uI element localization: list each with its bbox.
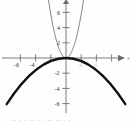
parabola-plot <box>0 0 136 124</box>
y-axis-arrow-icon <box>63 0 69 4</box>
x-tick-label-4: 4 <box>79 62 82 68</box>
x-axis-label: x <box>127 55 130 61</box>
caption-fragment: ㅤ.. . . .. . . .. .. . . <box>4 115 71 123</box>
y-tick-label--4: -4 <box>55 86 60 92</box>
x-axis-arrow-icon <box>118 55 125 61</box>
figure-container: -6 -4 4 6 6 4 2 -2 -4 -6 x ㅤ.. . . .. . … <box>0 0 136 124</box>
y-tick-label--2: -2 <box>55 70 60 76</box>
y-tick-label--6: -6 <box>55 101 60 107</box>
x-tick-label-6: 6 <box>94 62 97 68</box>
y-tick-label-6: 6 <box>57 10 60 16</box>
x-tick-label--4: -4 <box>30 62 35 68</box>
y-tick-label-4: 4 <box>57 25 60 31</box>
caption-strip: ㅤ.. . . .. . . .. .. . . <box>0 115 136 124</box>
y-tick-label-2: 2 <box>57 40 60 46</box>
x-tick-label--6: -6 <box>14 62 19 68</box>
